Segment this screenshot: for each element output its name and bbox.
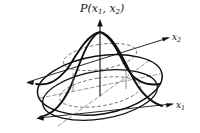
axes-group xyxy=(26,19,174,126)
axis-p-arrowhead xyxy=(97,19,103,27)
axis-x1-label-subscript: 1 xyxy=(181,104,185,112)
axis-x2-arrowhead xyxy=(162,37,170,41)
axis-x2-label: x2 xyxy=(172,33,181,44)
page-title: P(x1, x2) xyxy=(80,3,124,16)
axis-x1-label: x1 xyxy=(176,101,185,112)
axis-x2-label-subscript: 2 xyxy=(177,36,181,44)
title-close-paren: ) xyxy=(120,2,124,15)
axis-x1-arrowhead xyxy=(166,103,174,107)
probability-density-surface-figure xyxy=(0,0,200,133)
